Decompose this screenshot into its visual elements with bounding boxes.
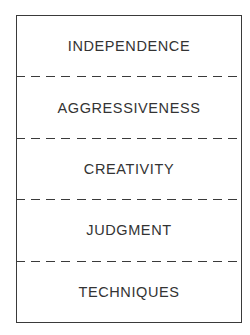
box-cell-aggressiveness: AGGRESSIVENESS [17, 77, 241, 137]
box-cell-judgment: JUDGMENT [17, 200, 241, 260]
box-cell-independence: INDEPENDENCE [17, 16, 241, 76]
stacked-box: INDEPENDENCE AGGRESSIVENESS CREATIVITY J… [16, 15, 242, 323]
box-cell-creativity: CREATIVITY [17, 139, 241, 199]
box-cell-techniques: TECHNIQUES [17, 262, 241, 322]
